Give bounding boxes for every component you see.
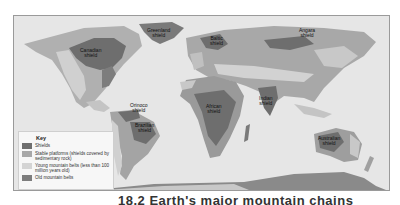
map-key: Key Shields Stable platforms (shields co… [18, 131, 114, 190]
key-item-shields: Shields [22, 143, 110, 149]
swatch-young-mountain-belts [22, 163, 32, 169]
key-title: Key [36, 135, 110, 141]
key-label: Stable platforms (shields covered by sed… [35, 151, 110, 161]
label-brazilian-shield: Brazilian shield [135, 123, 154, 133]
swatch-stable-platforms [22, 151, 32, 157]
figure-caption: 18.2 Earth's major mountain chains [118, 194, 353, 205]
key-label: Young mountain belts (less than 100 mill… [35, 163, 110, 173]
label-angara-shield: Angara shield [299, 28, 315, 38]
key-label: Shields [35, 143, 50, 148]
label-canadian-shield: Canadian shield [80, 48, 101, 58]
key-item-stable-platforms: Stable platforms (shields covered by sed… [22, 151, 110, 161]
label-australian-shield: Australian shield [318, 136, 340, 146]
key-item-old-mountain-belts: Old mountain belts [22, 175, 110, 181]
label-indian-shield: Indian shield [259, 96, 273, 106]
swatch-shields [22, 143, 32, 149]
label-orinoco-shield: Orinoco shield [130, 103, 148, 113]
label-african-shield: African shield [206, 104, 222, 114]
key-label: Old mountain belts [35, 175, 73, 180]
label-greenland-shield: Greenland shield [147, 28, 170, 38]
world-map-frame: Greenland shield Canadian shield Baltic … [13, 15, 390, 191]
swatch-old-mountain-belts [22, 175, 32, 181]
key-item-young-mountain-belts: Young mountain belts (less than 100 mill… [22, 163, 110, 173]
label-baltic-shield: Baltic shield [210, 36, 223, 46]
